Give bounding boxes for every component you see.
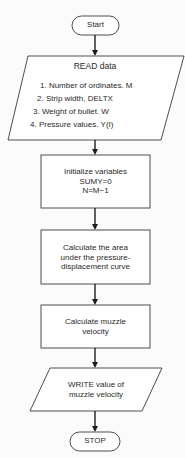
arrowhead-start-to-read [92,50,98,56]
arrowhead-read-to-init [92,149,98,155]
muzzle-line-1: Calculate muzzle [41,317,150,327]
area-line-2: under the pressure- [41,253,150,263]
read-item-4: 4. Pressure values. Y(I) [30,120,113,130]
arrowhead-area-to-muzzle [92,299,98,305]
write-line-2: muzzle velocity [40,390,152,400]
read-item-2: 2. Strip width, DELTX [37,94,113,104]
area-line-3: displacement curve [41,262,150,272]
write-text: WRITE value of muzzle velocity [40,380,152,399]
write-line-1: WRITE value of [40,380,152,390]
init-text: Initialize variables SUMY=0 N=M−1 [41,167,150,196]
start-label: Start [72,20,119,30]
init-line-2: SUMY=0 [41,177,150,187]
read-item-1: 1. Number of ordinates. M [40,81,132,91]
read-item-3: 3. Weight of bullet. W [33,107,109,117]
arrowhead-muzzle-to-write [92,362,98,368]
area-line-1: Calculate the area [41,243,150,253]
arrowhead-write-to-stop [92,426,98,432]
area-text: Calculate the area under the pressure- d… [41,243,150,272]
read-title: READ data [40,62,150,72]
muzzle-text: Calculate muzzle velocity [41,317,150,336]
arrowhead-init-to-area [92,224,98,230]
stop-label: STOP [70,436,120,446]
muzzle-line-2: velocity [41,327,150,337]
init-line-1: Initialize variables [41,167,150,177]
init-line-3: N=M−1 [41,186,150,196]
